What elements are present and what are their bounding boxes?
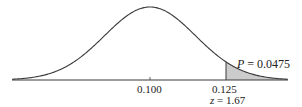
p-value-label: P = 0.0475 bbox=[237, 58, 290, 70]
z-score-label: z = 1.67 bbox=[210, 95, 245, 106]
mean-tick-label: 0.100 bbox=[137, 84, 162, 95]
